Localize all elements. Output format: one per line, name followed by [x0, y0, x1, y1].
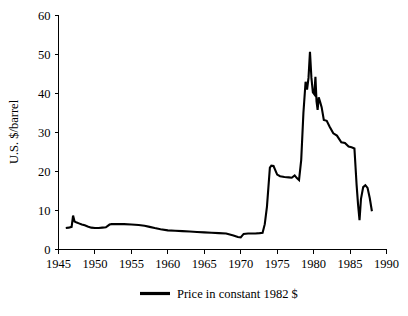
legend-label: Price in constant 1982 $ [177, 287, 298, 301]
x-tick-label: 1985 [338, 257, 363, 271]
series-group [66, 52, 372, 238]
x-tick-label: 1955 [119, 257, 144, 271]
x-tick-label: 1950 [82, 257, 107, 271]
price-series-line [66, 52, 372, 238]
x-tick-label: 1975 [265, 257, 290, 271]
y-tick-label: 0 [44, 243, 50, 257]
y-tick-label: 40 [38, 87, 51, 101]
x-tick-label: 1945 [46, 257, 71, 271]
x-tick-label: 1990 [374, 257, 399, 271]
y-axis-title: U.S. $/barrel [7, 99, 21, 164]
chart-axes [59, 16, 387, 250]
y-tick-label: 20 [38, 165, 51, 179]
chart-canvas: 0102030405060 19451950195519601965197019… [0, 0, 408, 316]
x-tick-label: 1965 [192, 257, 217, 271]
x-tick-label: 1970 [228, 257, 253, 271]
x-tick-label: 1960 [155, 257, 180, 271]
y-tick-label: 60 [38, 9, 51, 23]
oil-price-chart-figure: 0102030405060 19451950195519601965197019… [0, 0, 408, 316]
y-tick-label: 30 [38, 126, 51, 140]
y-tick-label: 10 [38, 204, 51, 218]
x-axis-ticks: 1945195019551960196519701975198019851990 [46, 250, 399, 271]
y-axis-ticks: 0102030405060 [38, 9, 59, 257]
x-tick-label: 1980 [301, 257, 326, 271]
y-tick-label: 50 [38, 48, 51, 62]
chart-legend: Price in constant 1982 $ [140, 287, 298, 301]
